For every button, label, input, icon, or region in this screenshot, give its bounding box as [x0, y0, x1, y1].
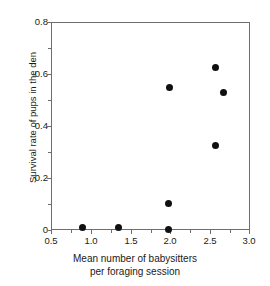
x-tick-major — [91, 230, 92, 234]
x-tick-label-2.5: 2.5 — [190, 236, 230, 246]
x-tick-minor — [230, 230, 231, 233]
x-tick-label-1.0: 1.0 — [71, 236, 111, 246]
x-tick-minor — [71, 230, 72, 233]
x-tick-major — [210, 230, 211, 234]
x-tick-major — [51, 230, 52, 234]
data-point — [115, 224, 122, 231]
y-axis-title: Survival rate of pups in the den — [27, 18, 38, 218]
data-point — [220, 89, 227, 96]
x-tick-label-3.0: 3.0 — [229, 236, 269, 246]
scatter-plot-figure: 0.8 0.6 0.4 0.2 0 0.5 1.0 1.5 2.0 2.5 3.… — [0, 0, 270, 286]
data-point — [212, 142, 219, 149]
x-tick-label-2.0: 2.0 — [150, 236, 190, 246]
x-tick-major — [249, 230, 250, 234]
data-point — [165, 200, 172, 207]
data-point — [79, 224, 86, 231]
data-point — [166, 84, 173, 91]
y-tick-label-0: 0 — [8, 225, 48, 235]
x-tick-minor — [151, 230, 152, 233]
data-points-layer — [52, 23, 249, 229]
x-axis-title-line-1: Mean number of babysitters — [0, 252, 270, 265]
x-tick-minor — [190, 230, 191, 233]
x-tick-label-0.5: 0.5 — [31, 236, 71, 246]
data-point — [165, 226, 172, 233]
x-axis-title: Mean number of babysitters per foraging … — [0, 252, 270, 278]
data-point — [212, 64, 219, 71]
x-tick-major — [131, 230, 132, 234]
plot-area — [51, 22, 250, 230]
x-tick-minor — [111, 230, 112, 233]
x-tick-label-1.5: 1.5 — [111, 236, 151, 246]
x-axis-title-line-2: per foraging session — [0, 265, 270, 278]
